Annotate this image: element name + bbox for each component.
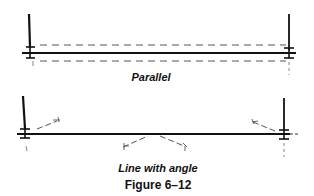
left-ibeam-icon	[20, 129, 30, 151]
angle-panel	[17, 96, 300, 157]
parallel-panel	[22, 14, 296, 75]
figure-caption: Figure 6–12	[0, 178, 314, 192]
left-wall-line	[23, 96, 25, 129]
left-wall-line	[29, 14, 30, 47]
left-ibeam-icon	[26, 47, 35, 66]
line-with-angle-label: Line with angle	[0, 162, 314, 174]
right-angle-dashed-line	[252, 119, 275, 131]
parallel-label: Parallel	[0, 71, 302, 83]
center-angle-dashed-lines	[123, 136, 187, 151]
left-angle-dashed-line	[37, 117, 60, 129]
